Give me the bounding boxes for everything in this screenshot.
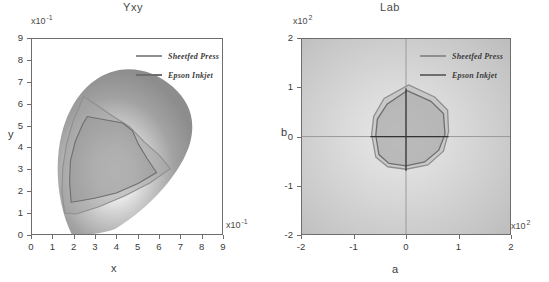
y-tick-label: 3: [0, 163, 23, 174]
y-tick: [27, 213, 31, 214]
x-axis-label-lab: a: [392, 263, 398, 275]
y-tick-label: 5: [0, 120, 23, 131]
y-tick: [27, 82, 31, 83]
x-tick: [223, 235, 224, 239]
chart-title-yxy: Yxy: [78, 1, 188, 13]
x-tick: [74, 235, 75, 239]
legend-swatch-epson-lab: [420, 74, 446, 76]
y-tick-label: 4: [0, 141, 23, 152]
chart-panel-yxy: Yxy x10-1 x10-1 y x: [0, 0, 275, 282]
y-tick-label: -1: [267, 180, 293, 191]
x-tick: [354, 235, 355, 239]
plot-area-yxy: Sheetfed Press Epson Inkjet: [31, 38, 223, 235]
plot-area-lab: Sheetfed Press Epson Inkjet: [301, 38, 511, 235]
y-tick: [297, 87, 301, 88]
y-tick-label: 2: [267, 32, 293, 43]
y-tick-label: 6: [0, 98, 23, 109]
x-tick: [180, 235, 181, 239]
y-axis-multiplier-lab: x102: [293, 14, 312, 26]
x-tick: [138, 235, 139, 239]
y-tick-label: 1: [267, 81, 293, 92]
legend-label-sheetfed-lab: Sheetfed Press: [452, 52, 503, 61]
y-tick: [297, 137, 301, 138]
y-tick-label: 2: [0, 185, 23, 196]
x-tick: [116, 235, 117, 239]
y-tick: [27, 126, 31, 127]
y-tick-label: 0: [0, 229, 23, 240]
y-tick: [27, 38, 31, 39]
y-tick: [297, 38, 301, 39]
y-tick: [27, 169, 31, 170]
legend-swatch-sheetfed: [136, 55, 162, 57]
legend-item-epson: Epson Inkjet: [136, 68, 219, 82]
y-tick: [27, 104, 31, 105]
legend-yxy: Sheetfed Press Epson Inkjet: [136, 49, 219, 87]
legend-item-epson-lab: Epson Inkjet: [420, 68, 503, 82]
x-tick: [159, 235, 160, 239]
y-tick-label: 0: [267, 131, 293, 142]
x-tick-label: 1: [445, 241, 473, 252]
x-tick: [459, 235, 460, 239]
legend-label-epson-lab: Epson Inkjet: [452, 71, 497, 80]
x-tick: [202, 235, 203, 239]
x-tick: [301, 235, 302, 239]
y-tick: [27, 147, 31, 148]
chart-title-lab: Lab: [335, 1, 445, 13]
y-tick: [27, 60, 31, 61]
legend-item-sheetfed-lab: Sheetfed Press: [420, 49, 503, 63]
legend-lab: Sheetfed Press Epson Inkjet: [420, 49, 503, 87]
legend-label-sheetfed: Sheetfed Press: [168, 52, 219, 61]
x-tick: [52, 235, 53, 239]
x-tick-label: 9: [209, 241, 237, 252]
y-tick-label: 1: [0, 207, 23, 218]
x-tick: [406, 235, 407, 239]
y-tick: [27, 235, 31, 236]
x-tick-label: -2: [287, 241, 315, 252]
x-tick: [511, 235, 512, 239]
chart-panel-lab: Lab x102 x102 b a: [275, 0, 549, 282]
y-tick-label: 9: [0, 32, 23, 43]
y-tick-label: -2: [267, 229, 293, 240]
x-tick-label: 0: [392, 241, 420, 252]
y-tick-label: 7: [0, 76, 23, 87]
x-tick-label: -1: [340, 241, 368, 252]
x-tick: [95, 235, 96, 239]
x-axis-multiplier-lab: x102: [511, 219, 530, 231]
y-tick: [27, 191, 31, 192]
y-axis-multiplier-yxy: x10-1: [31, 14, 53, 26]
x-tick-label: 2: [497, 241, 525, 252]
legend-label-epson: Epson Inkjet: [168, 71, 213, 80]
y-tick: [297, 235, 301, 236]
x-axis-multiplier-yxy: x10-1: [226, 218, 248, 230]
legend-item-sheetfed: Sheetfed Press: [136, 49, 219, 63]
legend-swatch-epson: [136, 74, 162, 76]
legend-swatch-sheetfed-lab: [420, 55, 446, 57]
x-axis-label-yxy: x: [111, 262, 117, 274]
y-tick: [297, 186, 301, 187]
y-tick-label: 8: [0, 54, 23, 65]
x-tick: [31, 235, 32, 239]
